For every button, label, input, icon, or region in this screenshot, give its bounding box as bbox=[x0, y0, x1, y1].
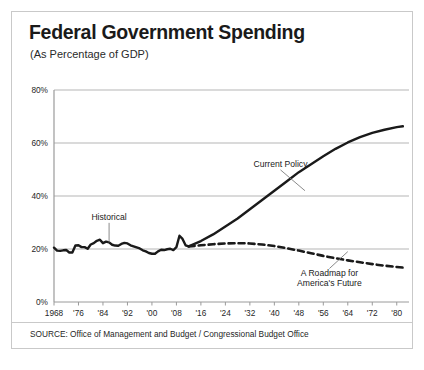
x-tick-label-2080: '80 bbox=[391, 308, 402, 318]
annotation-label-0: Historical bbox=[91, 212, 126, 222]
x-tick-label-2024: '24 bbox=[220, 308, 231, 318]
x-tick-label-1992: '92 bbox=[122, 308, 133, 318]
y-tick-label-40: 40% bbox=[31, 191, 48, 201]
y-tick-label-60: 60% bbox=[31, 138, 48, 148]
annotation-line-2: America's Future bbox=[297, 278, 362, 288]
y-tick-label-0: 0% bbox=[36, 297, 49, 307]
y-tick-label-80: 80% bbox=[31, 85, 48, 95]
source-note: SOURCE: Office of Management and Budget … bbox=[30, 329, 309, 339]
annotation-leader-1 bbox=[280, 170, 304, 191]
x-tick-label-2000: '00 bbox=[147, 308, 158, 318]
annotation-label-2: A Roadmap forAmerica's Future bbox=[297, 268, 362, 288]
x-tick-label-1976: '76 bbox=[73, 308, 84, 318]
series-line-2 bbox=[189, 243, 403, 267]
annotation-label-1: Current Policy bbox=[253, 159, 308, 169]
y-tick-label-20: 20% bbox=[31, 244, 48, 254]
x-tick-label-1984: '84 bbox=[98, 308, 109, 318]
x-tick-label-1968: 1968 bbox=[45, 308, 64, 318]
footer-divider bbox=[12, 322, 412, 323]
series-line-1 bbox=[189, 126, 403, 246]
x-tick-label-2016: '16 bbox=[195, 308, 206, 318]
chart-plot-area: 0%20%40%60%80%1968'76'84'92'00'08'16'24'… bbox=[12, 12, 414, 350]
x-tick-label-2048: '48 bbox=[293, 308, 304, 318]
x-tick-label-2056: '56 bbox=[318, 308, 329, 318]
spending-line-chart: 0%20%40%60%80%1968'76'84'92'00'08'16'24'… bbox=[12, 12, 414, 350]
annotation-leader-2 bbox=[329, 252, 347, 269]
annotation-line-1: A Roadmap for bbox=[301, 268, 358, 278]
x-tick-label-2072: '72 bbox=[367, 308, 378, 318]
series-line-0 bbox=[54, 236, 189, 254]
x-tick-label-2008: '08 bbox=[171, 308, 182, 318]
x-tick-label-2040: '40 bbox=[269, 308, 280, 318]
x-tick-label-2032: '32 bbox=[244, 308, 255, 318]
x-tick-label-2064: '64 bbox=[342, 308, 353, 318]
chart-card: Federal Government Spending (As Percenta… bbox=[11, 11, 413, 349]
